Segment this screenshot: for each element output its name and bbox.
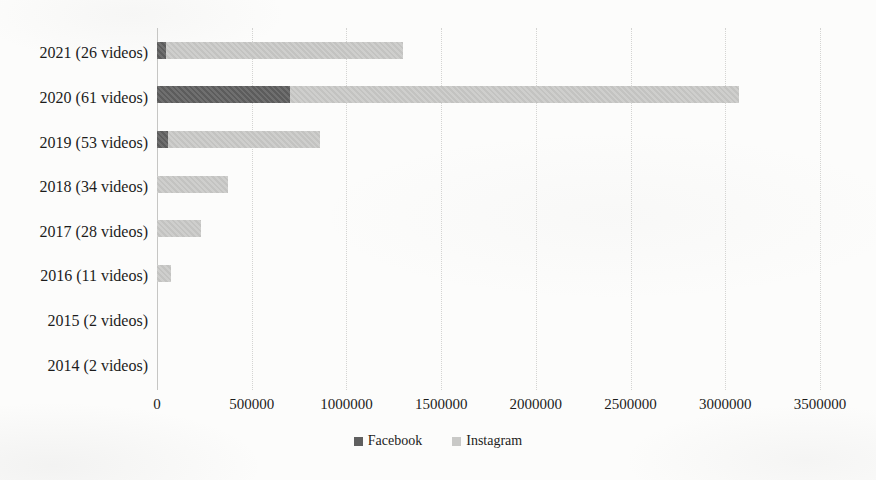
x-tick-label: 2500000 [586,396,676,413]
bar-row [157,220,820,237]
bar-segment-instagram [157,220,201,237]
y-axis-line [157,28,158,390]
gridline [536,28,537,390]
x-tick-label: 3000000 [680,396,770,413]
x-tick-label: 1000000 [301,396,391,413]
category-label: 2014 (2 videos) [0,356,148,376]
category-label: 2020 (61 videos) [0,88,148,108]
gridline [252,28,253,390]
category-label: 2021 (26 videos) [0,43,148,63]
category-label: 2017 (28 videos) [0,222,148,242]
gridline [820,28,821,390]
chart-legend: FacebookInstagram [0,433,876,449]
gridline [631,28,632,390]
bar-row [157,265,820,282]
bar-segment-instagram [290,86,739,103]
bar-row [157,310,820,327]
category-label: 2016 (11 videos) [0,266,148,286]
gridline [346,28,347,390]
bar-segment-facebook [157,42,166,59]
legend-swatch-icon [354,437,363,446]
bar-row [157,354,820,371]
bar-segment-facebook [157,86,290,103]
chart-plot-area [157,28,820,385]
bar-segment-instagram [157,265,171,282]
gridline [725,28,726,390]
bar-row [157,42,820,59]
x-tick-label: 500000 [207,396,297,413]
category-label: 2019 (53 videos) [0,133,148,153]
bar-row [157,176,820,193]
bar-segment-instagram [168,131,320,148]
legend-swatch-icon [452,437,461,446]
stacked-bar-chart: 2021 (26 videos)2020 (61 videos)2019 (53… [0,0,876,480]
category-label: 2018 (34 videos) [0,177,148,197]
legend-label: Instagram [466,433,522,449]
bar-segment-facebook [157,131,168,148]
x-tick-label: 0 [112,396,202,413]
x-tick-label: 1500000 [396,396,486,413]
x-tick-label: 2000000 [491,396,581,413]
bar-segment-instagram [166,42,403,59]
gridline [441,28,442,390]
bar-row [157,131,820,148]
x-tick-label: 3500000 [775,396,865,413]
legend-label: Facebook [368,433,422,449]
legend-item-facebook: Facebook [354,433,422,449]
legend-item-instagram: Instagram [452,433,522,449]
category-label: 2015 (2 videos) [0,311,148,331]
bar-row [157,86,820,103]
bar-segment-instagram [157,176,228,193]
